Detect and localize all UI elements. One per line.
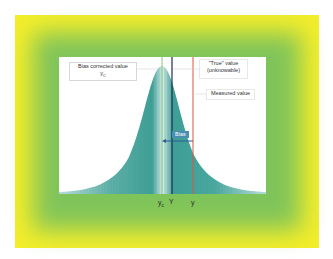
axis-mark-y: y	[191, 199, 195, 207]
bias-corrected-label: Bias corrected value yC	[69, 62, 137, 81]
true-value-label: "True" value (unknowable)	[199, 59, 248, 79]
measured-value-label: Measured value	[206, 89, 255, 100]
yc-symbol: yC	[70, 70, 136, 79]
axis-mark-Y: Y	[169, 198, 174, 206]
bias-corrected-text: Bias corrected value	[70, 63, 136, 70]
bias-label: Bias	[172, 131, 189, 138]
true-value-text: "True" value	[200, 60, 247, 67]
unknowable-text: (unknowable)	[200, 67, 247, 74]
measured-value-text: Measured value	[207, 90, 254, 97]
axis-mark-yc: yc	[158, 199, 164, 209]
